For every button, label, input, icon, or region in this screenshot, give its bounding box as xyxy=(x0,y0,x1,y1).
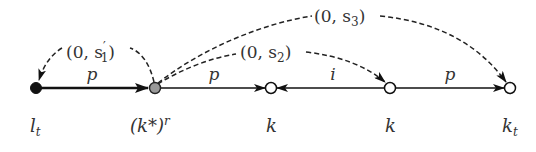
node-kt xyxy=(505,83,516,94)
edge-label-p-3: p xyxy=(445,64,456,84)
node-kstar-r xyxy=(150,83,161,94)
node-k1 xyxy=(266,83,277,94)
node-label-lt: lt xyxy=(30,115,41,139)
node-k2 xyxy=(385,83,396,94)
arc-label-s3: (0, s3) xyxy=(314,6,365,29)
edge-label-p-2: p xyxy=(209,64,220,84)
arc-label-s2: (0, s2) xyxy=(240,42,291,65)
edge-label-p-1: p xyxy=(87,64,98,84)
node-label-k2: k xyxy=(385,115,396,136)
state-diagram: p p i p (0, s′1) (0, s2) (0, s3) lt (k*)… xyxy=(0,0,536,152)
node-label-kt: kt xyxy=(502,115,518,139)
edge-label-i: i xyxy=(330,64,335,84)
node-lt xyxy=(31,83,42,94)
node-label-kstar-r: (k*)r xyxy=(130,114,171,136)
arc-label-s1-prime: (0, s′1) xyxy=(66,40,115,65)
node-label-k1: k xyxy=(266,115,277,136)
